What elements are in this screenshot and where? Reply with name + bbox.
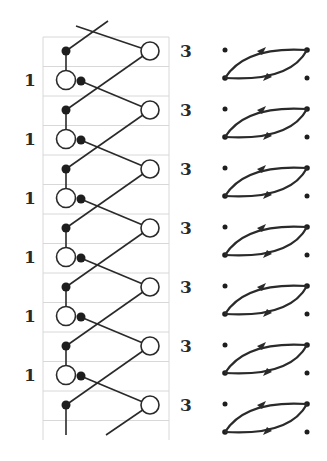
point-dot bbox=[305, 312, 310, 317]
open-node-1 bbox=[57, 307, 76, 326]
label-1: 1 bbox=[24, 188, 36, 208]
solid-node bbox=[77, 77, 86, 86]
solid-node bbox=[62, 165, 71, 174]
label-3: 3 bbox=[180, 336, 192, 356]
label-1: 1 bbox=[24, 70, 36, 90]
point-dot bbox=[223, 343, 228, 348]
point-dot bbox=[223, 107, 228, 112]
point-dot bbox=[305, 371, 310, 376]
label-3: 3 bbox=[180, 159, 192, 179]
open-node-1 bbox=[57, 71, 76, 90]
open-node-3 bbox=[141, 278, 159, 296]
ladder-diagram: 3131313131313 bbox=[0, 0, 327, 461]
label-1: 1 bbox=[24, 129, 36, 149]
open-node-1 bbox=[57, 130, 76, 149]
open-node-3 bbox=[141, 219, 159, 237]
label-3: 3 bbox=[180, 100, 192, 120]
label-3: 3 bbox=[180, 218, 192, 238]
solid-node bbox=[62, 283, 71, 292]
label-1: 1 bbox=[24, 247, 36, 267]
solid-node bbox=[77, 313, 86, 322]
label-3: 3 bbox=[180, 277, 192, 297]
point-dot bbox=[305, 430, 310, 435]
open-node-1 bbox=[57, 189, 76, 208]
label-3: 3 bbox=[180, 41, 192, 61]
point-dot bbox=[223, 402, 228, 407]
solid-node bbox=[62, 224, 71, 233]
solid-node bbox=[77, 254, 86, 263]
point-dot bbox=[305, 135, 310, 140]
point-dot bbox=[223, 48, 228, 53]
open-node-1 bbox=[57, 366, 76, 385]
edge bbox=[66, 21, 108, 51]
label-3: 3 bbox=[180, 395, 192, 415]
edge bbox=[76, 26, 150, 51]
point-dot bbox=[223, 225, 228, 230]
label-1: 1 bbox=[24, 306, 36, 326]
point-dot bbox=[223, 166, 228, 171]
open-node-3 bbox=[141, 396, 159, 414]
solid-node bbox=[62, 342, 71, 351]
point-dot bbox=[305, 76, 310, 81]
open-node-3 bbox=[141, 101, 159, 119]
open-node-1 bbox=[57, 248, 76, 267]
open-node-3 bbox=[141, 160, 159, 178]
solid-node bbox=[77, 195, 86, 204]
label-1: 1 bbox=[24, 365, 36, 385]
solid-node bbox=[62, 401, 71, 410]
solid-node bbox=[77, 136, 86, 145]
open-node-3 bbox=[141, 337, 159, 355]
solid-node bbox=[62, 106, 71, 115]
point-dot bbox=[305, 253, 310, 258]
point-dot bbox=[223, 284, 228, 289]
open-node-3 bbox=[141, 42, 159, 60]
solid-node bbox=[77, 372, 86, 381]
point-dot bbox=[305, 194, 310, 199]
solid-node bbox=[62, 47, 71, 56]
